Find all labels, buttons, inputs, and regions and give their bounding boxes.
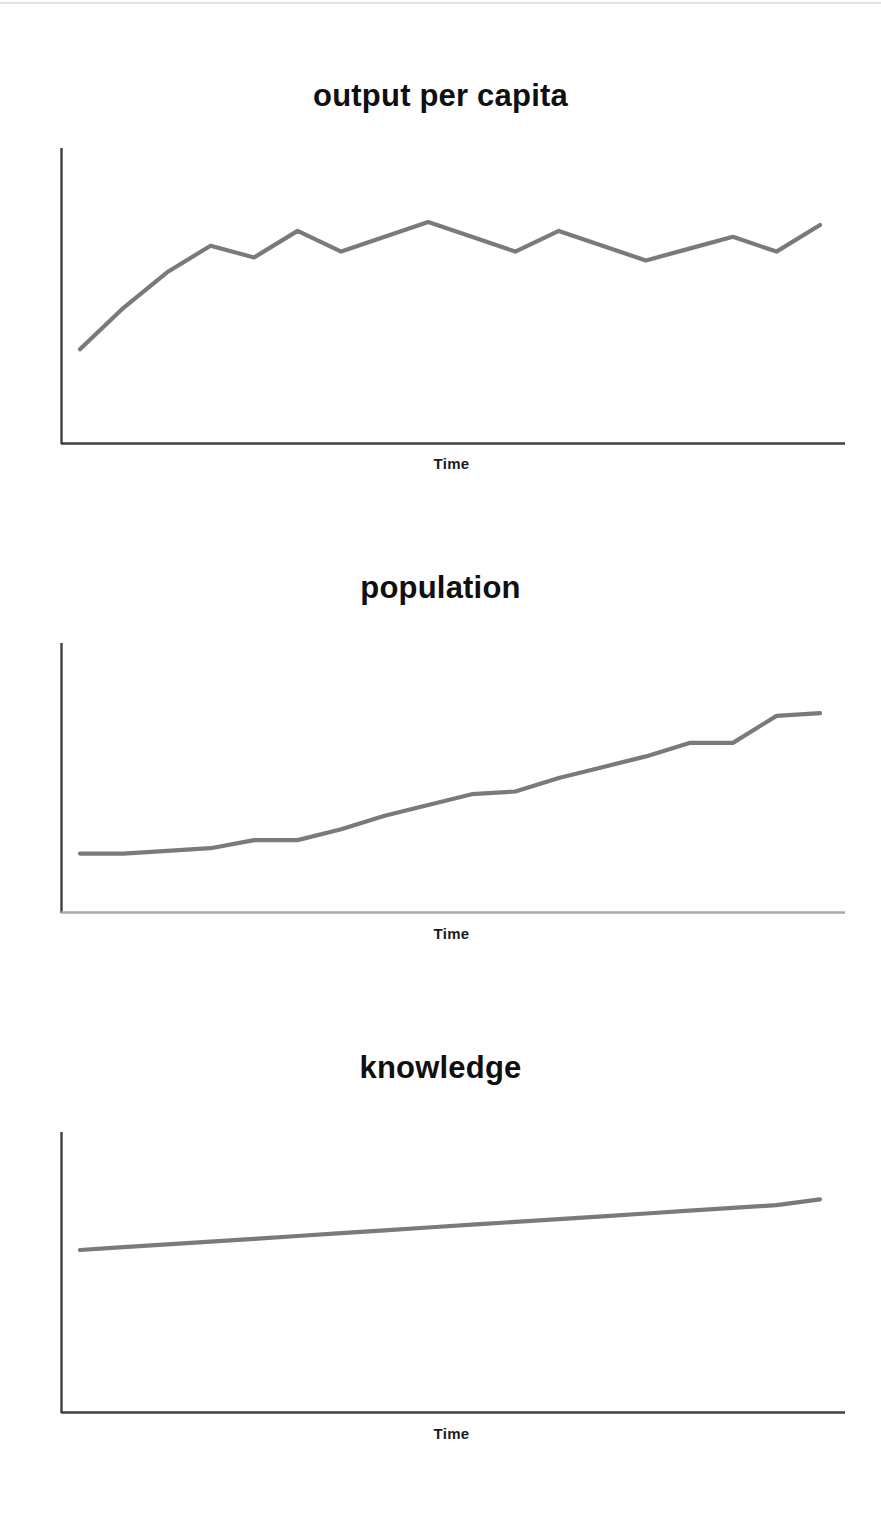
chart-panel-population xyxy=(0,540,881,990)
x-axis-label-text: Time xyxy=(434,455,470,472)
x-axis-label-text: Time xyxy=(434,925,470,942)
chart-panel-output-per-capita xyxy=(0,55,881,485)
chart-panel-knowledge xyxy=(0,1020,881,1490)
top-divider xyxy=(0,2,881,4)
figure-canvas: output per capita Time population Time k… xyxy=(0,0,881,1515)
x-axis-label-knowledge: Time xyxy=(0,1425,881,1442)
x-axis-label-population: Time xyxy=(0,925,881,942)
chart-title-output-per-capita: output per capita xyxy=(0,78,881,114)
chart-title-population: population xyxy=(0,570,881,606)
x-axis-label-output-per-capita: Time xyxy=(0,455,881,472)
chart-title-knowledge: knowledge xyxy=(0,1050,881,1086)
x-axis-label-text: Time xyxy=(434,1425,470,1442)
